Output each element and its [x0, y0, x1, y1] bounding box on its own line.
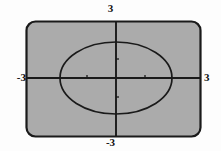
y-axis-min-label: -3 [0, 137, 221, 148]
plot-canvas [0, 0, 221, 151]
plot-figure: 3 -3 -3 3 [0, 0, 221, 151]
y-axis-max-label: 3 [0, 3, 221, 14]
x-axis-min-label: -3 [2, 72, 26, 83]
x-axis-max-label: 3 [204, 72, 220, 83]
plot-area-background [27, 22, 201, 137]
